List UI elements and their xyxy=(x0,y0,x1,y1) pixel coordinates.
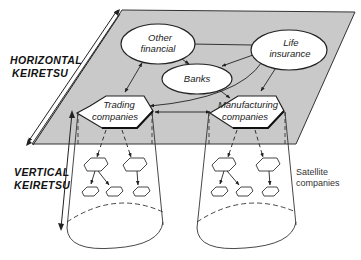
svg-text:Trading: Trading xyxy=(103,99,135,110)
svg-text:companies: companies xyxy=(92,111,138,122)
vertical-keiretsu-label: VERTICAL KEIRETSU xyxy=(14,166,70,191)
satellite-companies-label: Satellite companies xyxy=(296,167,340,188)
svg-text:Banks: Banks xyxy=(184,73,211,84)
node-life-insurance: Life insurance xyxy=(251,30,327,70)
svg-text:financial: financial xyxy=(141,43,177,54)
svg-text:KEIRETSU: KEIRETSU xyxy=(12,67,68,79)
svg-text:Other: Other xyxy=(148,32,173,43)
satellite-companies-tier1 xyxy=(84,158,280,171)
svg-text:KEIRETSU: KEIRETSU xyxy=(14,179,70,191)
node-banks: Banks xyxy=(162,64,232,94)
svg-text:Satellite: Satellite xyxy=(296,167,328,177)
satellite-arrows xyxy=(91,171,270,185)
horizontal-keiretsu-label: HORIZONTAL KEIRETSU xyxy=(10,54,82,79)
svg-text:insurance: insurance xyxy=(269,48,310,59)
keiretsu-diagram: Other financial Life insurance Banks Tra… xyxy=(0,0,361,260)
svg-text:Life: Life xyxy=(283,37,298,48)
arrowhead-down-icon xyxy=(58,223,64,231)
svg-text:companies: companies xyxy=(222,111,268,122)
svg-text:companies: companies xyxy=(296,178,340,188)
arrowhead-down-icon xyxy=(26,139,32,146)
svg-text:Manufacturing: Manufacturing xyxy=(218,99,279,110)
satellite-companies-tier2 xyxy=(82,187,279,196)
svg-text:HORIZONTAL: HORIZONTAL xyxy=(10,54,82,66)
svg-text:VERTICAL: VERTICAL xyxy=(14,166,70,178)
node-other-financial: Other financial xyxy=(121,24,195,64)
